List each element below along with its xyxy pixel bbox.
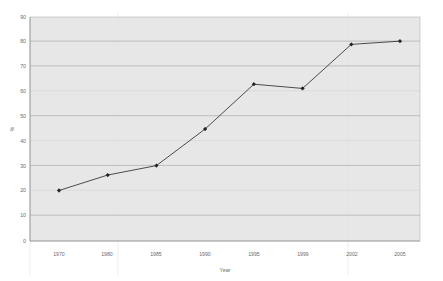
line-chart: 90 80 70 60 50 40 30 20 10 0 % 1970 1980… — [0, 0, 443, 281]
x-tick-label: 1990 — [199, 251, 211, 257]
chart-canvas: 90 80 70 60 50 40 30 20 10 0 % 1970 1980… — [0, 0, 443, 281]
y-tick-label: 20 — [20, 187, 26, 193]
x-tick-label: 2002 — [346, 251, 358, 257]
x-tick-label: 1970 — [53, 251, 65, 257]
y-tick-label: 40 — [20, 138, 26, 144]
y-axis-title: % — [9, 126, 15, 131]
y-tick-label: 50 — [20, 113, 26, 119]
x-tick-label: 1985 — [150, 251, 162, 257]
plot-area-background — [30, 17, 420, 241]
y-tick-label: 0 — [23, 238, 26, 244]
y-tick-label: 70 — [20, 63, 26, 69]
y-tick-label: 60 — [20, 88, 26, 94]
x-tick-label: 1995 — [248, 251, 260, 257]
y-axis-title-group: % — [9, 126, 15, 131]
x-tick-label: 2005 — [394, 251, 406, 257]
y-tick-label: 80 — [20, 38, 26, 44]
x-tick-label: 1980 — [101, 251, 113, 257]
y-tick-label: 90 — [20, 14, 26, 20]
x-axis-title: Year — [220, 267, 231, 273]
y-tick-label: 10 — [20, 212, 26, 218]
x-tick-label: 1999 — [297, 251, 309, 257]
y-tick-label: 30 — [20, 163, 26, 169]
